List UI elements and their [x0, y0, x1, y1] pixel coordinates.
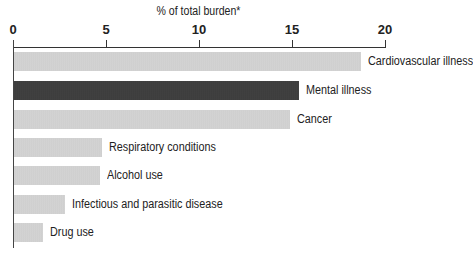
- tick-label-20: 20: [370, 22, 400, 37]
- tick-label-15: 15: [277, 22, 307, 37]
- tick-label-10: 10: [184, 22, 214, 37]
- tick-label-5: 5: [91, 22, 121, 37]
- tick-mark: [385, 40, 386, 48]
- bar: [14, 110, 290, 129]
- bar: [14, 52, 361, 71]
- bar: [14, 81, 299, 100]
- tick-mark: [199, 40, 200, 48]
- bar-label: Mental illness: [306, 83, 371, 97]
- bar-label: Cancer: [297, 112, 332, 126]
- bar-label: Alcohol use: [107, 168, 163, 182]
- bar: [14, 223, 43, 242]
- tick-mark: [106, 40, 107, 48]
- bar: [14, 138, 102, 157]
- tick-mark: [292, 40, 293, 48]
- bar-label: Respiratory conditions: [109, 140, 216, 154]
- bar: [14, 166, 100, 185]
- bar-label: Infectious and parasitic disease: [72, 197, 223, 211]
- tick-label-0: 0: [0, 22, 28, 37]
- bar: [14, 195, 65, 214]
- axis-title: % of total burden*: [24, 4, 373, 18]
- bar-label: Drug use: [50, 225, 94, 239]
- bar-label: Cardiovascular illness: [368, 54, 473, 68]
